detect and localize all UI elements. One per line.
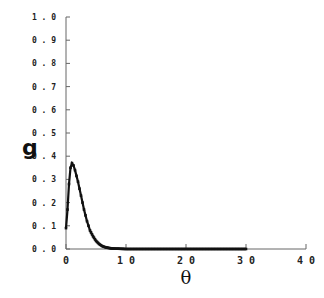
data-point-marker bbox=[65, 227, 68, 230]
data-point-marker bbox=[66, 208, 69, 211]
y-tick-label: 0 . 3 bbox=[32, 175, 56, 184]
y-tick-label: 0 . 0 bbox=[32, 245, 56, 254]
y-tick-label: 0 . 6 bbox=[32, 106, 56, 115]
y-tick-label: 0 . 9 bbox=[32, 36, 56, 45]
data-point-marker bbox=[83, 208, 86, 211]
y-tick-label: 0 . 7 bbox=[32, 83, 56, 92]
data-point-marker bbox=[71, 162, 74, 165]
data-point-marker bbox=[75, 175, 78, 178]
axis-ticks: 0 . 00 . 10 . 20 . 30 . 40 . 50 . 60 . 7… bbox=[32, 13, 315, 266]
y-tick-label: 0 . 8 bbox=[32, 59, 56, 68]
data-series bbox=[65, 162, 248, 250]
x-tick-label: 3 0 bbox=[237, 255, 255, 266]
x-tick-label: 2 0 bbox=[177, 255, 195, 266]
data-point-marker bbox=[68, 183, 71, 186]
x-tick-label: 0 bbox=[63, 255, 69, 266]
y-axis-label: g bbox=[22, 135, 38, 160]
axes bbox=[66, 17, 306, 249]
data-point-marker bbox=[81, 201, 84, 204]
data-point-marker bbox=[87, 225, 90, 228]
data-point-marker bbox=[78, 187, 81, 190]
x-axis-label: θ bbox=[181, 267, 192, 288]
data-point-marker bbox=[84, 214, 87, 217]
y-tick-label: 1 . 0 bbox=[32, 13, 56, 22]
x-tick-label: 4 0 bbox=[297, 255, 315, 266]
data-point-marker bbox=[86, 220, 89, 223]
y-tick-label: 0 . 1 bbox=[32, 222, 56, 231]
data-point-marker bbox=[69, 167, 72, 170]
chart: 0 . 00 . 10 . 20 . 30 . 40 . 50 . 60 . 7… bbox=[0, 0, 324, 298]
y-tick-label: 0 . 2 bbox=[32, 199, 56, 208]
data-point-marker bbox=[245, 248, 248, 251]
x-tick-label: 1 0 bbox=[117, 255, 135, 266]
data-point-marker bbox=[77, 180, 80, 183]
data-point-marker bbox=[80, 194, 83, 197]
data-point-marker bbox=[72, 164, 75, 167]
data-point-marker bbox=[74, 169, 77, 172]
